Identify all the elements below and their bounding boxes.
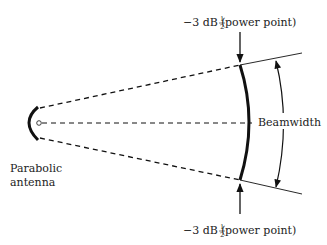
bottom-label-suffix: power point) — [225, 224, 296, 237]
antenna-diagram: Beamwidth Parabolic antenna −3 dB ( 1 2 … — [0, 0, 327, 245]
top-power-point-label: −3 dB ( 1 2 power point) — [183, 15, 296, 31]
beamwidth-label: Beamwidth — [258, 116, 321, 129]
bottom-label-frac-den: 2 — [220, 231, 224, 239]
antenna-label-line2: antenna — [10, 176, 56, 189]
extension-line-bottom — [240, 180, 302, 194]
beam-edge-bottom — [40, 138, 240, 180]
extension-line-top — [240, 53, 302, 65]
antenna-label-line1: Parabolic — [10, 162, 62, 175]
focus-point — [37, 121, 42, 126]
bottom-label-frac-num: 1 — [220, 223, 224, 231]
top-label-frac-den: 2 — [220, 23, 224, 31]
bottom-power-point-label: −3 dB ( 1 2 power point) — [183, 223, 296, 239]
top-label-frac-num: 1 — [220, 15, 224, 23]
top-label-suffix: power point) — [225, 16, 296, 29]
beam-edge-top — [40, 65, 240, 108]
